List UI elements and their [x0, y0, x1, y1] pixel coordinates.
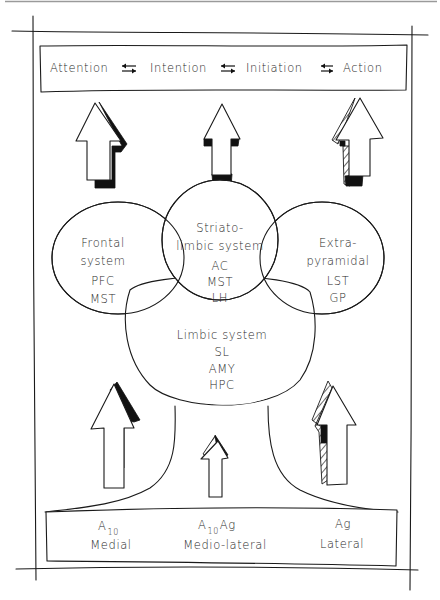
up-arrow-mediolateral: [201, 435, 228, 497]
structure-mst: MST: [90, 292, 116, 306]
bidirectional-arrows-icon: [321, 64, 333, 74]
up-arrow-lateral: [312, 381, 356, 485]
up-arrow-extrapyramidal: [332, 98, 383, 186]
bidirectional-arrows-icon: [221, 64, 235, 74]
structure-sl: SL: [215, 345, 230, 359]
pathway-label: Lateral: [320, 537, 364, 551]
svg-text:limbic system: limbic system: [176, 239, 263, 253]
up-arrow-frontal: [76, 102, 127, 188]
dopamine-sources-box: A10 Medial A10Ag Medio-lateral Ag Latera…: [46, 508, 397, 566]
svg-text:Extra-: Extra-: [319, 236, 357, 250]
pathway-label: Medio-lateral: [183, 538, 267, 552]
source-label: Ag: [335, 517, 351, 531]
process-chain-box: Attention Intention Initiation Action: [40, 45, 407, 92]
structure-lst: LST: [327, 274, 350, 288]
structure-gp: GP: [329, 291, 346, 305]
structure-mst: MST: [207, 275, 233, 289]
dopamine-systems-diagram: Attention Intention Initiation Action: [0, 0, 440, 600]
structure-amy: AMY: [209, 362, 236, 376]
step-attention: Attention: [50, 61, 108, 75]
svg-text:Limbic system: Limbic system: [177, 328, 268, 342]
step-intention: Intention: [150, 61, 207, 75]
pathway-label: Medial: [90, 538, 131, 552]
svg-text:pyramidal: pyramidal: [306, 254, 369, 268]
step-initiation: Initiation: [246, 61, 303, 75]
svg-text:system: system: [80, 254, 125, 268]
structure-pfc: PFC: [91, 274, 114, 288]
structure-lh: LH: [212, 291, 228, 305]
svg-text:Frontal: Frontal: [81, 236, 125, 250]
bidirectional-arrows-icon: [122, 64, 136, 74]
up-arrow-striatolimbic: [204, 104, 240, 187]
svg-text:Striato-: Striato-: [196, 221, 244, 235]
up-arrow-medial: [91, 382, 140, 488]
structure-hpc: HPC: [209, 378, 234, 392]
structure-ac: AC: [212, 259, 229, 273]
step-action: Action: [343, 61, 383, 75]
